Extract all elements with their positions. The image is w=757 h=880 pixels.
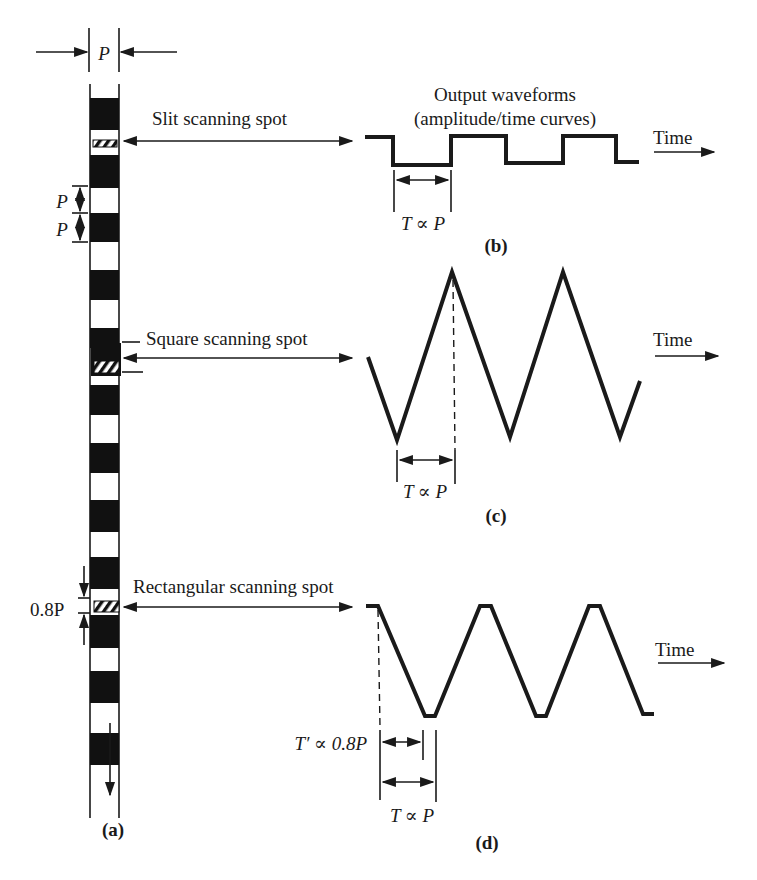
caption-a: (a) [102,819,124,841]
triangle-waveform [368,272,640,440]
trapezoid-waveform [366,606,654,716]
caption-d: (d) [475,832,498,854]
rect-height-marker: 0.8P [30,566,90,645]
spot-label-rectangular: Rectangular scanning spot [133,576,334,597]
period-label-c: T ∝ P [403,481,448,502]
header-line-2: (amplitude/time curves) [414,108,596,130]
time-label-d: Time [655,639,694,660]
caption-b: (b) [484,235,507,257]
square-spot [94,361,119,373]
short-period-label-d: T′ ∝ 0.8P [295,733,368,754]
film-strip: (a) [90,84,124,841]
spot-label-square: Square scanning spot [146,328,308,349]
scanning-spot-diagram: Output waveforms (amplitude/time curves)… [0,0,757,880]
output-waveforms-header: Output waveforms (amplitude/time curves) [414,84,596,130]
pitch-label: P [97,43,110,64]
time-label-b: Time [653,127,692,148]
header-line-1: Output waveforms [434,84,576,105]
period-label-d: T ∝ P [390,805,435,826]
panel-c: Square scanning spot Time T ∝ P (c) [122,272,718,527]
rectangular-spot [94,601,119,612]
pitch-label-b: P [55,219,68,240]
slit-spot [93,140,117,147]
pitch-markers: P P [55,186,88,242]
square-waveform [365,136,639,165]
caption-c: (c) [485,505,506,527]
period-label-b: T ∝ P [401,213,446,234]
time-label-c: Time [653,329,692,350]
pitch-label-a: P [55,191,68,212]
rect-height-label: 0.8P [30,599,64,620]
panel-d: Rectangular scanning spot Time T′ ∝ 0.8P… [124,576,724,854]
spot-label-slit: Slit scanning spot [152,108,288,129]
pitch-dimension: P [36,28,177,72]
panel-b: Slit scanning spot Time T ∝ P (b) [124,108,714,257]
